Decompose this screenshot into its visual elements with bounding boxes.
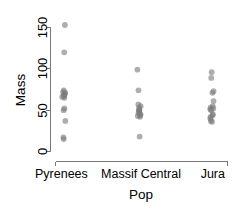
- data-point: [136, 87, 142, 93]
- scatter-plot-canvas: 150 100 50 0 Mass Pyrenees Massif Centra…: [0, 0, 245, 222]
- data-point: [61, 107, 67, 113]
- data-points-group: [59, 22, 216, 142]
- x-tick-label-jura: Jura: [201, 167, 225, 181]
- x-axis-title: Pop: [129, 187, 153, 202]
- x-axis-tick-labels: Pyrenees Massif Central Jura: [35, 167, 225, 181]
- x-tick-label-pyrenees: Pyrenees: [35, 167, 88, 181]
- data-point: [137, 134, 143, 140]
- data-point: [211, 98, 217, 104]
- y-axis-ticks: [46, 28, 51, 152]
- data-point: [61, 136, 67, 142]
- y-axis-tick-labels: 150 100 50 0: [35, 17, 50, 155]
- y-axis-title: Mass: [13, 74, 28, 107]
- data-point: [62, 118, 68, 124]
- x-tick-label-massif-central: Massif Central: [101, 167, 181, 181]
- data-point: [208, 75, 214, 81]
- data-point: [209, 119, 215, 125]
- data-point: [61, 95, 67, 101]
- data-point: [134, 67, 140, 73]
- y-tick-label-50: 50: [35, 103, 50, 117]
- y-tick-label-0: 0: [35, 148, 50, 155]
- y-tick-label-150: 150: [35, 17, 50, 39]
- y-tick-label-100: 100: [35, 58, 50, 80]
- data-point: [137, 114, 143, 120]
- data-point: [61, 49, 67, 55]
- data-point: [210, 90, 216, 96]
- data-point: [62, 22, 68, 28]
- data-point: [209, 69, 215, 75]
- chart-figure: 150 100 50 0 Mass Pyrenees Massif Centra…: [0, 0, 245, 222]
